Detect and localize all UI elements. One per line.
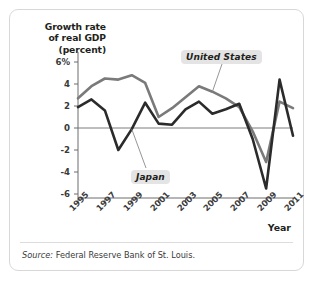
leader-line-united-states (212, 64, 222, 92)
plot-area (10, 10, 303, 270)
series-label-japan: Japan (131, 170, 170, 184)
source-note: Source: Federal Reserve Bank of St. Loui… (22, 250, 195, 260)
source-text: Federal Reserve Bank of St. Louis. (56, 250, 195, 260)
x-axis-title: Year (268, 222, 291, 233)
source-prefix: Source: (22, 250, 53, 260)
chart-card: Growth rate of real GDP (percent) 6%420-… (9, 9, 304, 271)
y-tick-label: -6 (44, 189, 70, 199)
series-label-united-states: United States (181, 50, 262, 64)
y-tick-label: -2 (44, 145, 70, 155)
tick-marks-group (74, 62, 293, 203)
y-tick-label: 4 (44, 79, 70, 89)
leader-line-japan (132, 129, 146, 168)
y-tick-label: 6% (44, 57, 70, 67)
chart-svg (10, 10, 303, 270)
y-tick-label: 0 (44, 123, 70, 133)
y-tick-label: 2 (44, 101, 70, 111)
series-line-united-states (78, 75, 293, 162)
source-divider (20, 242, 293, 243)
y-tick-label: -4 (44, 167, 70, 177)
